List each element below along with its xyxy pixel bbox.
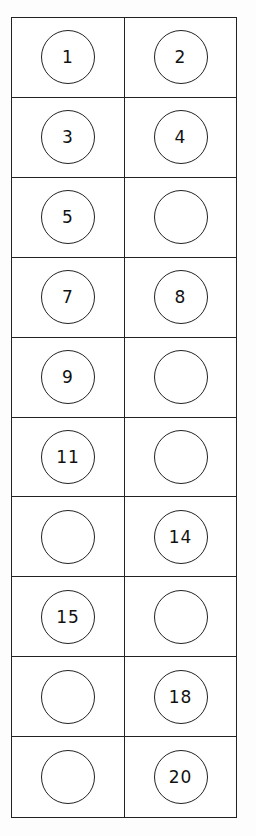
number-circle-15: 15 [41, 590, 95, 644]
number-circle-2: 2 [154, 30, 208, 84]
number-circle-20: 20 [154, 750, 208, 804]
number-circle-18: 18 [154, 670, 208, 724]
grid-cell-14: 14 [125, 497, 236, 577]
grid-cell-9: 9 [12, 338, 125, 418]
grid-cell-7: 7 [12, 258, 125, 338]
grid-cell-17 [12, 657, 125, 737]
number-circle-4: 4 [154, 110, 208, 164]
grid-cell-19 [12, 737, 125, 817]
number-circle-11: 11 [41, 430, 95, 484]
blank-circle-17[interactable] [41, 670, 95, 724]
grid-cell-12 [125, 418, 236, 498]
number-circle-8: 8 [154, 270, 208, 324]
number-circle-5: 5 [41, 190, 95, 244]
blank-circle-19[interactable] [41, 750, 95, 804]
grid-cell-2: 2 [125, 18, 236, 98]
number-circle-14: 14 [154, 510, 208, 564]
blank-circle-6[interactable] [154, 190, 208, 244]
blank-circle-10[interactable] [154, 350, 208, 404]
grid-cell-1: 1 [12, 18, 125, 98]
grid-cell-6 [125, 178, 236, 258]
grid-cell-16 [125, 577, 236, 657]
grid-cell-5: 5 [12, 178, 125, 258]
blank-circle-16[interactable] [154, 590, 208, 644]
grid-cell-3: 3 [12, 98, 125, 178]
number-circle-1: 1 [41, 30, 95, 84]
grid-cell-4: 4 [125, 98, 236, 178]
number-circle-3: 3 [41, 110, 95, 164]
grid-cell-15: 15 [12, 577, 125, 657]
grid-cell-20: 20 [125, 737, 236, 817]
grid-cell-13 [12, 497, 125, 577]
number-grid: 1 2 3 4 5 7 8 9 [11, 17, 237, 818]
grid-cell-11: 11 [12, 418, 125, 498]
number-circle-9: 9 [41, 350, 95, 404]
grid-cell-10 [125, 338, 236, 418]
number-circle-7: 7 [41, 270, 95, 324]
blank-circle-13[interactable] [41, 510, 95, 564]
grid-cell-18: 18 [125, 657, 236, 737]
grid-cell-8: 8 [125, 258, 236, 338]
blank-circle-12[interactable] [154, 430, 208, 484]
worksheet-page: 1 2 3 4 5 7 8 9 [0, 0, 256, 836]
